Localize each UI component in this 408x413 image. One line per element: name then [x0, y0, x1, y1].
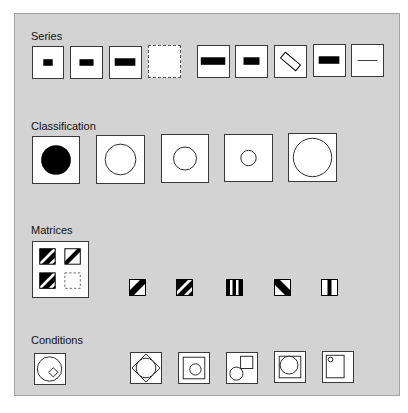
matrices-heading: Matrices: [31, 224, 73, 236]
class-outline-circle-medium[interactable]: [161, 134, 209, 183]
cond-square-with-small-circle[interactable]: [178, 352, 210, 384]
matrix-grid[interactable]: [32, 241, 89, 298]
cond-overlapping-circle-square[interactable]: [226, 352, 258, 384]
matrix-single-stripe-option[interactable]: [129, 279, 146, 296]
cond-rect-with-dot[interactable]: [322, 351, 354, 383]
series-medium-bar-2[interactable]: [235, 45, 268, 78]
matrix-back-diagonal-option[interactable]: [274, 279, 291, 296]
series-rotated-outline-bar[interactable]: [274, 45, 307, 78]
series-wide-bar[interactable]: [197, 45, 230, 78]
series-small-bar[interactable]: [32, 46, 64, 79]
classification-heading: Classification: [31, 120, 96, 132]
matrix-vertical-single-option[interactable]: [321, 279, 338, 296]
conditions-heading: Conditions: [31, 334, 83, 346]
class-filled-circle[interactable]: [32, 136, 80, 184]
cond-square-with-large-circle[interactable]: [274, 351, 306, 383]
class-outline-circle-large[interactable]: [96, 135, 145, 184]
cond-circle-with-diamond[interactable]: [34, 353, 66, 385]
class-outline-circle-small[interactable]: [224, 134, 273, 182]
cond-diamond-with-circle[interactable]: [130, 352, 162, 384]
series-medium-bar[interactable]: [70, 46, 103, 79]
matrix-vertical-bars-option[interactable]: [226, 279, 243, 296]
series-heading: Series: [31, 30, 62, 42]
matrix-single-stripe: [65, 249, 80, 264]
series-large-bar-2[interactable]: [313, 44, 346, 77]
series-thin-line[interactable]: [351, 44, 384, 77]
series-large-bar[interactable]: [109, 46, 142, 79]
matrix-double-stripe: [40, 249, 57, 266]
symbol-palette-panel: Series Classification Matrices: [14, 13, 400, 396]
series-empty-dashed[interactable]: [148, 45, 181, 78]
matrix-empty-dashed: [65, 273, 80, 288]
matrix-double-stripe-2: [40, 273, 57, 290]
class-outline-circle-xlarge[interactable]: [288, 133, 337, 182]
matrix-double-stripe-option[interactable]: [176, 279, 193, 296]
